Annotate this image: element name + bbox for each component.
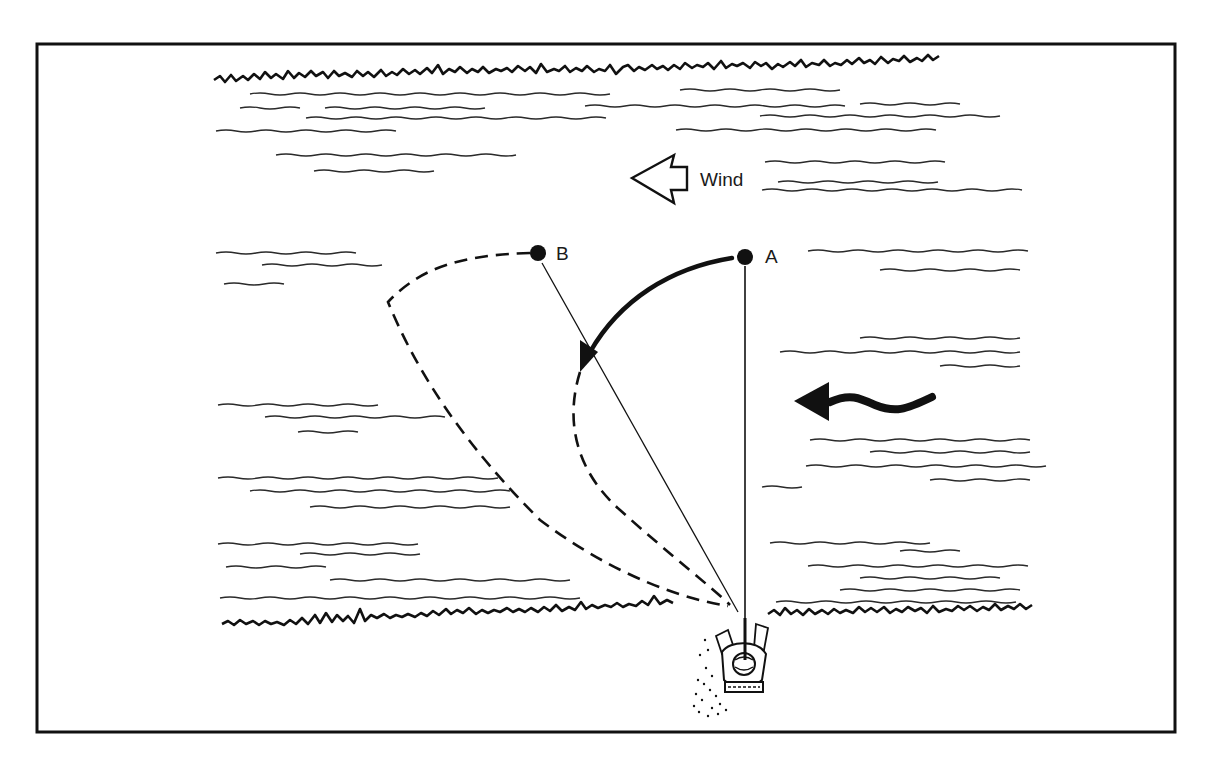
point-a-label: A [765, 246, 778, 267]
line-to-b [542, 263, 738, 612]
point-a-marker [737, 249, 753, 265]
dashed-drift-inner [573, 372, 730, 605]
angler-icon [693, 618, 768, 717]
water-ripples [216, 89, 1046, 603]
wind-label: Wind [700, 169, 743, 190]
far-bank-reeds [214, 55, 939, 82]
dashed-drift-outer [388, 253, 728, 606]
near-bank-reeds [222, 596, 673, 625]
point-b-label: B [556, 243, 569, 264]
drift-curve-arrow [590, 258, 732, 352]
figure-frame [37, 44, 1175, 732]
near-bank-reeds-right [768, 604, 1032, 615]
current-arrow-icon [794, 382, 932, 421]
wind-arrow-icon [632, 155, 687, 203]
fishing-drift-diagram: Wind A B [0, 0, 1207, 768]
point-b-marker [530, 245, 546, 261]
